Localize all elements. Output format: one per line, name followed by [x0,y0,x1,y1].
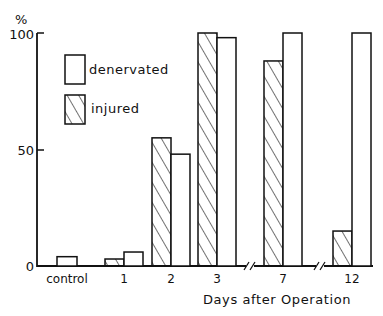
bar-denervated-1 [124,252,143,266]
chart-canvas: % 100 50 0 control 1 2 3 [0,0,383,316]
bar-denervated-7 [283,33,302,266]
y-axis: % 100 50 0 [9,12,44,274]
legend: denervated injured [65,55,169,124]
bar-denervated-3 [217,38,236,266]
bar-denervated-control [57,257,77,266]
y-unit-label: % [15,12,27,27]
x-category-label: 7 [279,272,287,286]
x-axis-title: Days after Operation [203,292,351,307]
x-category-label: control [46,272,88,286]
x-category-label: 2 [167,272,175,286]
x-category-label: 3 [213,272,221,286]
bar-denervated-12 [352,33,371,266]
bar-denervated-2 [171,154,190,266]
x-category-label: 12 [344,272,359,286]
legend-item-injured: injured [65,95,140,124]
y-tick-label-50: 50 [17,143,34,158]
legend-label-denervated: denervated [89,62,169,77]
bar-chart: % 100 50 0 control 1 2 3 [0,0,383,316]
x-axis: control 1 2 3 7 12 Days after Operation [37,262,373,307]
y-tick-label-0: 0 [26,259,34,274]
y-tick-label-100: 100 [9,27,34,42]
legend-label-injured: injured [91,101,140,116]
x-category-label: 1 [120,272,128,286]
bar-injured-3 [198,33,217,266]
legend-item-denervated: denervated [65,55,169,84]
legend-swatch-hatched [65,95,85,124]
bar-injured-1 [105,259,124,266]
bar-injured-12 [333,231,352,266]
legend-swatch-open [65,55,85,84]
bar-injured-7 [264,61,283,266]
bar-injured-2 [152,138,171,266]
